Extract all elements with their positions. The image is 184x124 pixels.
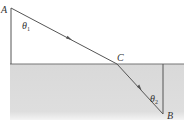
point-label-b: B [167, 110, 173, 121]
point-label-c: C [117, 52, 124, 63]
incident-ray [11, 8, 117, 64]
point-label-a: A [0, 4, 8, 15]
lower-medium-region [10, 64, 184, 120]
angle-label-theta1: θ1 [22, 20, 30, 32]
arrow-icon-incident [66, 36, 72, 40]
refraction-diagram: A C B θ1 θ2 [0, 0, 184, 124]
